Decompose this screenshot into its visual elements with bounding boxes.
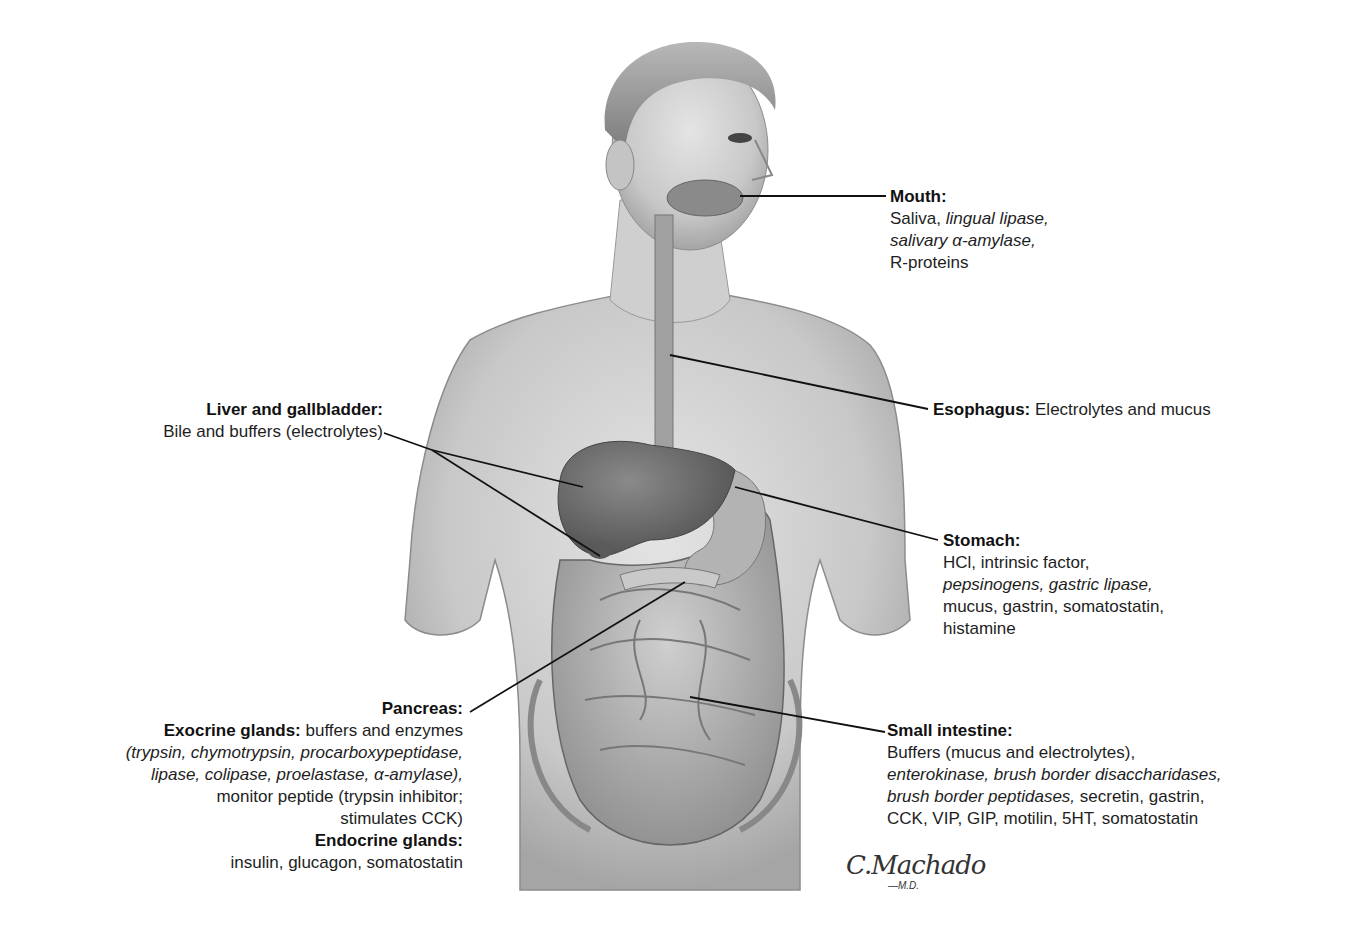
label-pancreas-endocrine-title: Endocrine glands:	[126, 830, 463, 852]
label-mouth-line-1: Saliva, lingual lipase,	[890, 208, 1049, 230]
label-pancreas-endocrine-line: insulin, glucagon, somatostatin	[126, 852, 463, 874]
label-pancreas: Pancreas: Exocrine glands: buffers and e…	[126, 698, 463, 874]
label-pancreas-exocrine: Exocrine glands: buffers and enzymes	[126, 720, 463, 742]
label-pancreas-title: Pancreas:	[126, 698, 463, 720]
label-stomach-title: Stomach:	[943, 530, 1164, 552]
label-esophagus: Esophagus: Electrolytes and mucus	[933, 399, 1211, 421]
label-mouth-line-3: R-proteins	[890, 252, 1049, 274]
label-mouth-title: Mouth:	[890, 186, 1049, 208]
artist-signature-suffix: —M.D.	[888, 880, 919, 891]
label-mouth-line-2: salivary α-amylase,	[890, 230, 1049, 252]
label-pancreas-line-3: monitor peptide (trypsin inhibitor;	[126, 786, 463, 808]
label-liver-title: Liver and gallbladder:	[163, 399, 383, 421]
label-mouth: Mouth: Saliva, lingual lipase, salivary …	[890, 186, 1049, 274]
label-small-intestine-line-2: enterokinase, brush border disaccharidas…	[887, 764, 1222, 786]
artist-signature: C.Machado	[846, 850, 985, 880]
label-liver-gallbladder: Liver and gallbladder: Bile and buffers …	[163, 399, 383, 443]
label-liver-line-1: Bile and buffers (electrolytes)	[163, 421, 383, 443]
label-small-intestine-title: Small intestine:	[887, 720, 1222, 742]
label-small-intestine-line-4: CCK, VIP, GIP, motilin, 5HT, somatostati…	[887, 808, 1222, 830]
label-pancreas-line-4: stimulates CCK)	[126, 808, 463, 830]
label-pancreas-line-2: lipase, colipase, proelastase, α-amylase…	[126, 764, 463, 786]
label-stomach-line-1: HCl, intrinsic factor,	[943, 552, 1164, 574]
label-esophagus-text: Electrolytes and mucus	[1030, 400, 1210, 419]
label-esophagus-title: Esophagus:	[933, 400, 1030, 419]
label-small-intestine-line-3: brush border peptidases, secretin, gastr…	[887, 786, 1222, 808]
label-stomach-line-2: pepsinogens, gastric lipase,	[943, 574, 1164, 596]
label-stomach-line-3: mucus, gastrin, somatostatin,	[943, 596, 1164, 618]
esophagus-organ	[655, 215, 673, 455]
label-pancreas-line-1: (trypsin, chymotrypsin, procarboxypeptid…	[126, 742, 463, 764]
label-stomach-line-4: histamine	[943, 618, 1164, 640]
label-small-intestine-line-1: Buffers (mucus and electrolytes),	[887, 742, 1222, 764]
label-small-intestine: Small intestine: Buffers (mucus and elec…	[887, 720, 1222, 830]
label-stomach: Stomach: HCl, intrinsic factor, pepsinog…	[943, 530, 1164, 640]
